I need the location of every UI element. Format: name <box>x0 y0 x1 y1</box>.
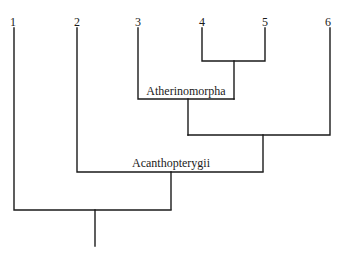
cladogram-lines <box>0 0 338 255</box>
branch-acanthopterygii <box>77 28 263 172</box>
taxon-label-2: 2 <box>74 16 80 28</box>
clade-label-acanthopterygii: Acanthopterygii <box>131 157 211 169</box>
taxon-label-4: 4 <box>199 16 205 28</box>
clade-label-atherinomorpha: Atherinomorpha <box>145 85 226 97</box>
taxon-label-1: 1 <box>10 16 16 28</box>
branch-root <box>14 28 171 210</box>
branch-atherinomorpha-6 <box>188 28 330 135</box>
taxon-label-6: 6 <box>325 16 331 28</box>
taxon-label-5: 5 <box>262 16 268 28</box>
taxon-label-3: 3 <box>135 16 141 28</box>
branch-4-5 <box>202 28 265 61</box>
cladogram: 1 2 3 4 5 6 Atherinomorpha Acanthopteryg… <box>0 0 338 255</box>
